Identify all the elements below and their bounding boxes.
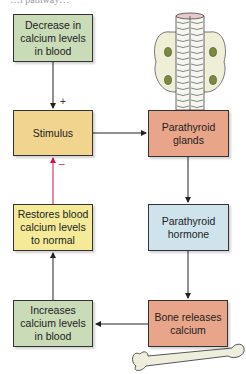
node-stimulus: Stimulus (13, 110, 93, 156)
node-bone-releases-calcium: Bone releases calcium (148, 300, 228, 347)
node-label: Restores blood calcium levels to normal (17, 208, 89, 247)
node-label: Decrease in calcium levels in blood (17, 19, 89, 58)
node-parathyroid-glands: Parathyroid glands (148, 110, 229, 157)
positive-sign: + (60, 96, 66, 107)
node-increases-calcium: Increases calcium levels in blood (13, 300, 93, 347)
node-label: Increases calcium levels in blood (17, 304, 89, 343)
node-label: Parathyroid hormone (152, 215, 225, 241)
parathyroid-illustration (155, 13, 226, 110)
node-restores-calcium: Restores blood calcium levels to normal (13, 204, 93, 251)
node-label: Stimulus (33, 127, 73, 140)
node-decrease-calcium: Decrease in calcium levels in blood (13, 14, 93, 62)
negative-sign: – (59, 158, 65, 169)
node-label: Bone releases calcium (152, 311, 224, 337)
node-label: Parathyroid glands (152, 121, 225, 147)
bone-illustration (133, 344, 245, 370)
node-parathyroid-hormone: Parathyroid hormone (148, 204, 229, 251)
